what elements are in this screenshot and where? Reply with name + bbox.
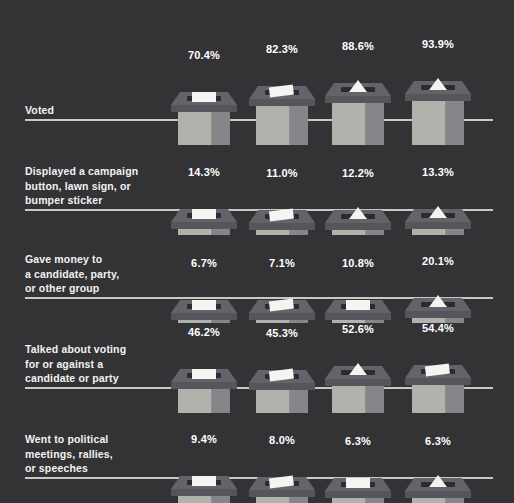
- bar-value-label: 54.4%: [405, 322, 471, 334]
- ballot-box: 8.0%: [249, 451, 315, 503]
- bar-value-label: 9.4%: [171, 433, 237, 445]
- bar-value-label: 14.3%: [171, 166, 237, 178]
- ballot-paper: [429, 75, 447, 90]
- bar-value-label: 45.3%: [249, 327, 315, 339]
- ballot-box-lid-rim: [171, 105, 237, 112]
- chart-row: Displayed a campaign button, lawn sign, …: [0, 122, 514, 214]
- chart-row: Voted70.4%82.3%88.6%93.9%: [0, 8, 514, 126]
- ballot-paper: [192, 92, 216, 102]
- bar-value-label: 46.2%: [171, 326, 237, 338]
- chart-row-inner: Talked about voting for or against a can…: [0, 300, 514, 392]
- ballot-box-body: [332, 498, 384, 503]
- ballot-box: 6.3%: [405, 452, 471, 503]
- ballot-box-lid-rim: [249, 490, 315, 497]
- bar-value-label: 82.3%: [249, 43, 315, 55]
- ballot-box: 9.4%: [171, 450, 237, 503]
- bar-value-label: 12.2%: [325, 167, 391, 179]
- ballot-paper: [349, 360, 367, 375]
- bar-value-label: 8.0%: [249, 434, 315, 446]
- bar-value-label: 11.0%: [249, 167, 315, 179]
- bar-value-label: 70.4%: [171, 49, 237, 61]
- ballot-box-lid-rim: [325, 491, 391, 498]
- bar-value-label: 6.7%: [171, 257, 237, 269]
- chart-row-inner: Gave money to a candidate, party, or oth…: [0, 212, 514, 302]
- bar-value-label: 52.6%: [325, 323, 391, 335]
- ballot-paper: [192, 476, 216, 486]
- bar-value-label: 88.6%: [325, 40, 391, 52]
- bar-value-label: 10.8%: [325, 257, 391, 269]
- row-category-label: Gave money to a candidate, party, or oth…: [25, 252, 170, 296]
- ballot-paper: [349, 77, 367, 92]
- ballot-box-body: [178, 496, 230, 503]
- row-category-label: Talked about voting for or against a can…: [25, 342, 170, 386]
- chart-row: Talked about voting for or against a can…: [0, 300, 514, 392]
- row-category-label: Went to political meetings, rallies, or …: [25, 432, 170, 476]
- bar-value-label: 6.3%: [405, 435, 471, 447]
- ballot-box-lid-rim: [325, 96, 391, 103]
- bar-value-label: 93.9%: [405, 38, 471, 50]
- chart-row: Gave money to a candidate, party, or oth…: [0, 212, 514, 302]
- chart-row-inner: Displayed a campaign button, lawn sign, …: [0, 122, 514, 214]
- ballot-box-body: [412, 498, 464, 503]
- ballot-paper: [429, 472, 447, 487]
- bar-value-label: 13.3%: [405, 166, 471, 178]
- ballot-box-lid-rim: [249, 99, 315, 106]
- ballot-box-lid-rim: [171, 382, 237, 389]
- chart-row-inner: Went to political meetings, rallies, or …: [0, 390, 514, 486]
- ballot-box-lid-rim: [171, 489, 237, 496]
- ballot-box: 6.3%: [325, 452, 391, 503]
- ballot-paper: [192, 369, 216, 379]
- bar-value-label: 7.1%: [249, 257, 315, 269]
- chart-row: Went to political meetings, rallies, or …: [0, 390, 514, 486]
- ballot-paper: [346, 478, 370, 488]
- chart-row-inner: Voted70.4%82.3%88.6%93.9%: [0, 8, 514, 126]
- ballot-box-lid-rim: [405, 94, 471, 101]
- ballot-box-lid-rim: [249, 383, 315, 390]
- row-category-label: Displayed a campaign button, lawn sign, …: [25, 164, 170, 208]
- ballot-box-lid-rim: [325, 379, 391, 386]
- row-category-label: Voted: [25, 103, 170, 118]
- bar-value-label: 20.1%: [405, 255, 471, 267]
- ballot-box-body: [256, 497, 308, 503]
- ballot-box-lid-rim: [405, 491, 471, 498]
- ballot-box-lid-rim: [405, 378, 471, 385]
- bar-value-label: 6.3%: [325, 435, 391, 447]
